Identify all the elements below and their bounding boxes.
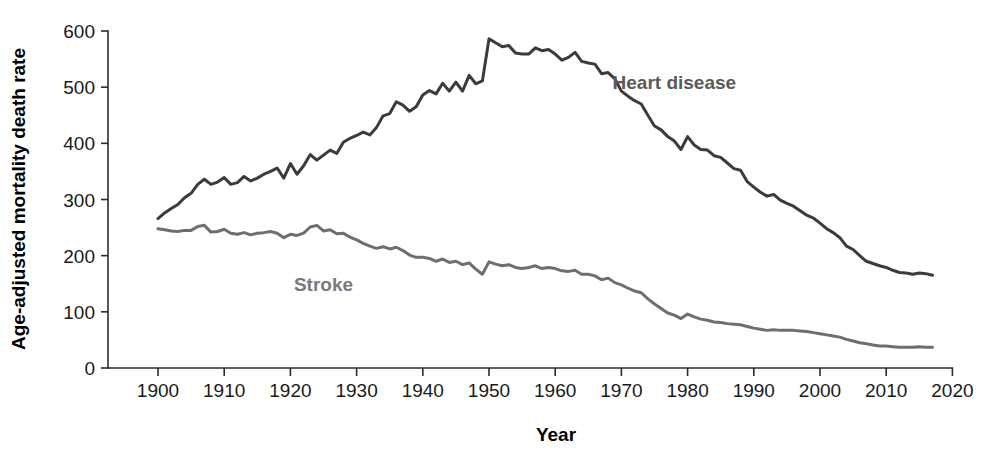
series-annotation-labels: Heart diseaseStroke [294, 72, 736, 295]
series-line-heart-disease [158, 39, 933, 275]
x-tick-label: 2020 [931, 380, 973, 401]
x-tick-label: 2000 [799, 380, 841, 401]
x-tick-labels: 1900191019201930194019501960197019801990… [137, 380, 974, 401]
x-tick-label: 1960 [534, 380, 576, 401]
x-tick-label: 1950 [468, 380, 510, 401]
x-tick-label: 1980 [666, 380, 708, 401]
y-axis-title: Age-adjusted mortality death rate [8, 48, 29, 350]
y-tick-label: 400 [63, 133, 95, 154]
x-tick-label: 1970 [600, 380, 642, 401]
series-label-stroke: Stroke [294, 274, 353, 295]
y-tick-label: 300 [63, 190, 95, 211]
tick-marks-group [101, 31, 952, 376]
chart-figure: 0100200300400500600 19001910192019301940… [0, 0, 1002, 459]
series-label-heart-disease: Heart disease [613, 72, 737, 93]
y-tick-labels: 0100200300400500600 [63, 21, 95, 379]
x-tick-label: 1940 [402, 380, 444, 401]
x-tick-label: 1930 [335, 380, 377, 401]
x-tick-label: 1910 [203, 380, 245, 401]
x-tick-label: 1990 [733, 380, 775, 401]
data-series-group [158, 39, 933, 347]
x-axis-title: Year [536, 424, 577, 445]
y-tick-label: 500 [63, 77, 95, 98]
y-tick-label: 600 [63, 21, 95, 42]
mortality-line-chart: 0100200300400500600 19001910192019301940… [0, 0, 1002, 459]
y-tick-label: 100 [63, 302, 95, 323]
x-tick-label: 1920 [269, 380, 311, 401]
axes-group [108, 31, 952, 368]
series-line-stroke [158, 225, 933, 347]
x-tick-label: 1900 [137, 380, 179, 401]
y-tick-label: 0 [84, 358, 95, 379]
x-tick-label: 2010 [865, 380, 907, 401]
y-tick-label: 200 [63, 246, 95, 267]
